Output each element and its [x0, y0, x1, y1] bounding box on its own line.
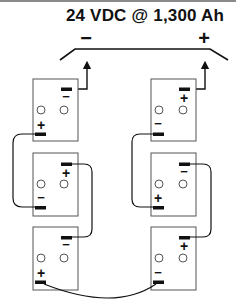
battery-left-top-top-polarity: −: [62, 89, 70, 104]
cable-right-middle-to-right-top: [132, 134, 153, 207]
output-positive-label: +: [198, 27, 210, 49]
battery-left-top-bottom-polarity: +: [37, 117, 45, 133]
terminal-bar: [153, 281, 164, 285]
battery-right-bottom: [151, 227, 196, 290]
battery-right-bottom-top-polarity: +: [180, 238, 188, 254]
battery-right-middle-top-polarity: −: [180, 164, 188, 179]
battery-right-top: [151, 79, 196, 141]
output-bus-bar: [60, 49, 228, 60]
terminal-bar: [153, 206, 164, 210]
battery-left-middle-bottom-polarity: −: [37, 190, 45, 205]
battery-right-middle: [151, 153, 196, 216]
battery-left-middle: [33, 153, 78, 216]
terminal-bar: [35, 281, 46, 285]
battery-left-middle-top-polarity: +: [62, 165, 70, 181]
terminal-bar: [35, 133, 46, 137]
battery-left-bottom-top-polarity: −: [62, 237, 70, 252]
terminal-bar: [35, 206, 46, 210]
terminal-bar: [153, 133, 164, 137]
battery-right-top-top-polarity: +: [180, 90, 188, 106]
battery-wiring-diagram: − + − + + − − +: [0, 0, 236, 305]
output-negative-label: −: [80, 27, 92, 49]
battery-right-top-bottom-polarity: −: [154, 116, 162, 131]
battery-left-bottom-bottom-polarity: +: [37, 265, 45, 281]
battery-right-bottom-bottom-polarity: −: [154, 265, 162, 280]
cable-left-top-to-left-middle: [13, 134, 35, 207]
battery-right-middle-bottom-polarity: +: [154, 190, 162, 206]
